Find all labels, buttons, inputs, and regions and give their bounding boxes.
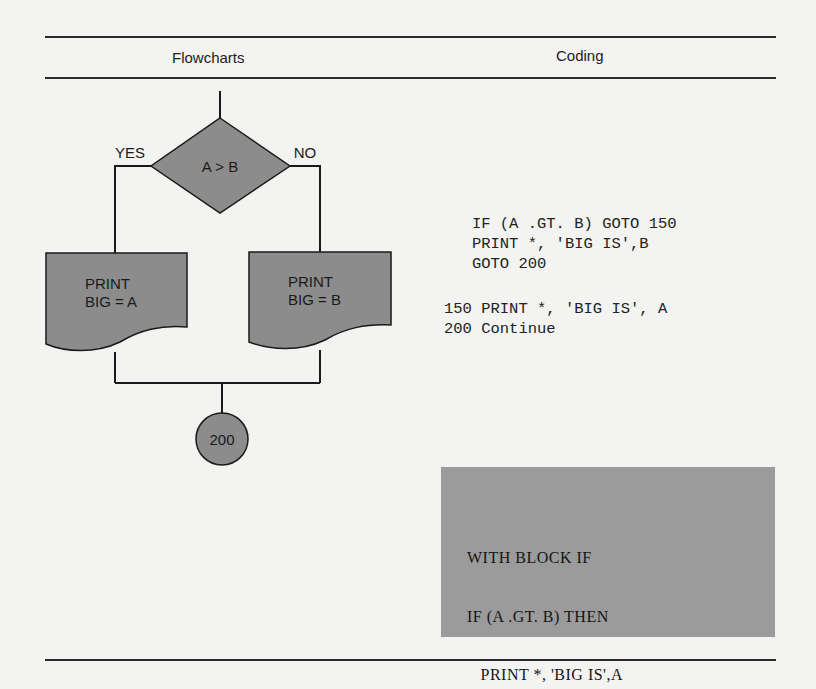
decision-label: A > B bbox=[202, 158, 238, 175]
no-branch-line bbox=[290, 166, 320, 253]
print-b-line2: BIG = B bbox=[288, 291, 341, 308]
no-label: NO bbox=[294, 144, 317, 161]
yes-branch-line bbox=[115, 166, 151, 253]
code-line: IF (A .GT. B) GOTO 150 bbox=[444, 214, 677, 234]
code-line: 200 Continue bbox=[444, 319, 556, 339]
code-line: 150 PRINT *, 'BIG IS', A bbox=[444, 299, 667, 319]
print-a-line1: PRINT bbox=[85, 275, 130, 292]
code-line: GOTO 200 bbox=[444, 254, 546, 274]
code-line: PRINT *, 'BIG IS',B bbox=[444, 234, 649, 254]
block-if-code-box: WITH BLOCK IF IF (A .GT. B) THEN PRINT *… bbox=[441, 467, 775, 637]
code-line: WITH BLOCK IF bbox=[467, 548, 623, 568]
code-line: PRINT *, 'BIG IS',A bbox=[467, 665, 623, 685]
print-b-line1: PRINT bbox=[288, 273, 333, 290]
code-line: IF (A .GT. B) THEN bbox=[467, 607, 623, 627]
block-if-code: WITH BLOCK IF IF (A .GT. B) THEN PRINT *… bbox=[467, 509, 623, 689]
yes-label: YES bbox=[115, 144, 145, 161]
flowchart: A > B YES NO PRINT BIG = A PRINT BIG = B… bbox=[0, 0, 440, 500]
connector-label: 200 bbox=[209, 431, 234, 448]
header-coding: Coding bbox=[556, 47, 604, 64]
bottom-rule bbox=[45, 659, 776, 661]
print-a-line2: BIG = A bbox=[85, 293, 137, 310]
